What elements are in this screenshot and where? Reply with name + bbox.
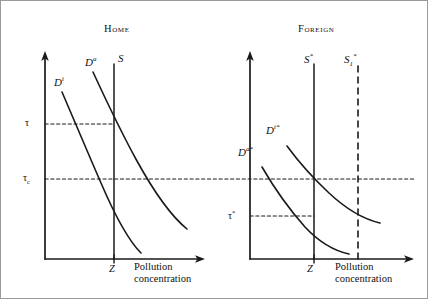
home-demand-curve-Da	[93, 72, 187, 229]
home-x-axis	[45, 255, 205, 263]
home-curve-label-Dt-sup: t	[62, 75, 64, 83]
foreign-curve-label-Dt-base: D	[266, 124, 274, 136]
foreign-panel-title: Foreign	[298, 23, 334, 34]
home-curve-label-S: S	[118, 52, 124, 64]
foreign-curve-label-S-sup: *	[310, 52, 314, 60]
home-y-tick-label-tau-text: τ	[25, 117, 29, 128]
figure-frame: Home Dt Da S τ τc Z Pollution concentrat…	[0, 0, 428, 299]
foreign-curve-label-S1: S1*	[344, 52, 357, 68]
foreign-demand-curve-Da	[262, 167, 349, 254]
home-y-tick-label-tau: τ	[25, 117, 29, 128]
home-curve-label-Da: Da	[85, 55, 96, 68]
foreign-curve-label-Da-sup: a*	[246, 145, 253, 153]
home-curve-label-Da-base: D	[85, 56, 93, 68]
diagram-svg	[1, 1, 428, 299]
foreign-curve-label-S1-sup: *	[353, 52, 357, 60]
foreign-curve-label-S1-sub: 1	[350, 60, 354, 68]
home-curve-label-Da-sup: a	[93, 55, 97, 63]
home-demand-curve-Dt	[62, 92, 141, 253]
home-y-axis	[41, 51, 49, 259]
home-curve-label-Dt-base: D	[54, 76, 62, 88]
diagram-stage: Home Dt Da S τ τc Z Pollution concentrat…	[1, 1, 428, 299]
foreign-y-tick-label-tau-star-sup: *	[232, 209, 235, 216]
home-x-axis-label-line2: concentration	[134, 273, 191, 284]
home-y-tick-label-tau-c-sub: c	[27, 178, 30, 185]
home-y-tick-label-tau-c: τc	[23, 172, 30, 185]
foreign-x-axis	[250, 255, 414, 263]
foreign-x-tick-label-Z: Z	[307, 263, 313, 274]
home-panel-title: Home	[104, 23, 130, 34]
foreign-curve-label-Dt-sup: t*	[274, 123, 279, 131]
foreign-curve-label-Da: Da*	[238, 145, 253, 158]
foreign-x-axis-label-line1: Pollution	[335, 261, 374, 272]
foreign-demand-curve-Dt	[287, 146, 380, 223]
foreign-curve-label-Da-base: D	[238, 146, 246, 158]
home-x-tick-label-Z: Z	[109, 263, 115, 274]
home-curve-label-Dt: Dt	[54, 75, 64, 88]
foreign-y-tick-label-tau-star: τ*	[228, 209, 235, 221]
foreign-x-axis-label-line2: concentration	[335, 273, 392, 284]
foreign-x-tick-label-Z-base: Z	[307, 263, 313, 274]
foreign-curve-label-S: S*	[304, 52, 313, 65]
foreign-curve-label-Dt: Dt*	[266, 123, 279, 136]
home-x-axis-label-line1: Pollution	[134, 261, 173, 272]
